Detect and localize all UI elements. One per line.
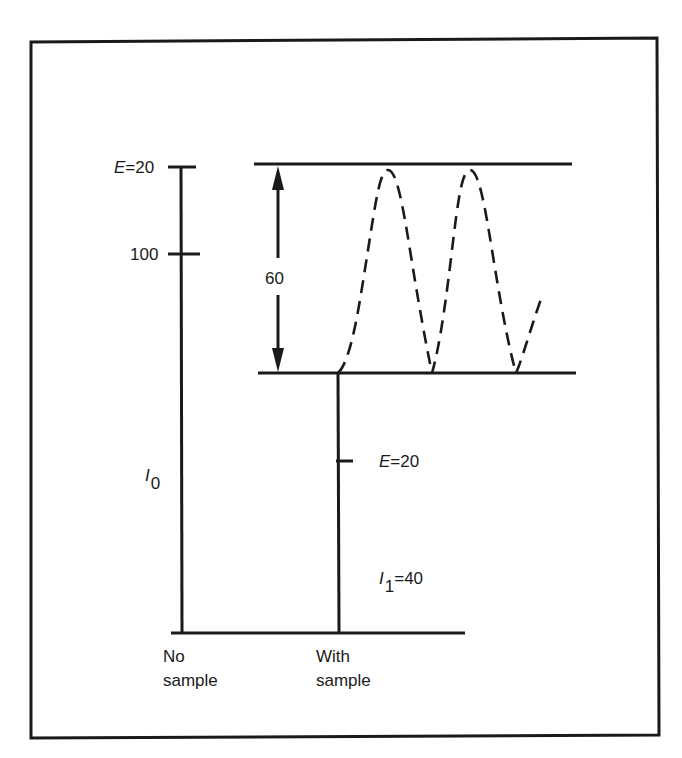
energy-symbol: E bbox=[379, 452, 390, 471]
energy-symbol: E bbox=[114, 158, 125, 177]
left-top-label: E=20 bbox=[114, 159, 154, 176]
i1-label: I1=40 bbox=[379, 570, 423, 587]
arrow-down-icon bbox=[272, 348, 284, 372]
intensity-subscript: 0 bbox=[151, 474, 160, 493]
with-sample-label-line2: sample bbox=[316, 672, 371, 689]
arrow-up-icon bbox=[272, 166, 284, 190]
right-e20-label: E=20 bbox=[379, 453, 419, 470]
intensity-symbol: I bbox=[145, 466, 150, 485]
energy-value: =20 bbox=[125, 158, 154, 177]
oscillation-curve bbox=[338, 170, 542, 373]
with-sample-bar bbox=[338, 373, 339, 633]
intensity-value: =40 bbox=[394, 569, 423, 588]
i0-label: I0 bbox=[145, 467, 160, 484]
left-100-label: 100 bbox=[130, 246, 158, 263]
diagram-canvas bbox=[0, 0, 682, 758]
range-label: 60 bbox=[265, 270, 284, 287]
no-sample-label-line2: sample bbox=[163, 672, 218, 689]
energy-value: =20 bbox=[390, 452, 419, 471]
with-sample-label-line1: With bbox=[316, 648, 350, 665]
intensity-symbol: I bbox=[379, 569, 384, 588]
no-sample-label-line1: No bbox=[163, 648, 185, 665]
no-sample-bar bbox=[181, 167, 182, 633]
intensity-subscript: 1 bbox=[385, 577, 394, 596]
